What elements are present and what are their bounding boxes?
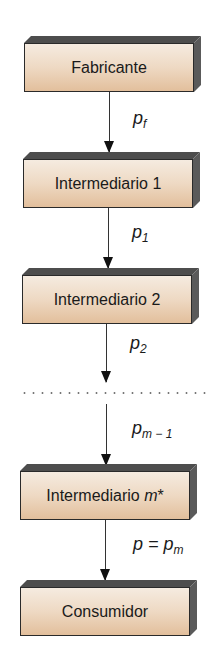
arrow-p1 — [108, 208, 109, 268]
box-top-face — [20, 464, 197, 471]
box-top-face — [22, 268, 199, 275]
box-consumidor: Consumidor — [20, 587, 190, 636]
box-label: Intermediario 1 — [23, 159, 193, 208]
arrow-pm-1 — [106, 404, 107, 465]
arrow-p-equals-pm — [105, 520, 106, 580]
box-side-face — [190, 580, 197, 636]
box-label: Intermediario m* — [20, 471, 190, 520]
box-side-face — [190, 464, 197, 520]
arrow-pf — [109, 92, 110, 152]
box-intermediario-2: Intermediario 2 — [22, 275, 192, 324]
box-top-face — [24, 36, 201, 43]
label-p2: p2 — [130, 333, 147, 356]
box-side-face — [193, 152, 200, 208]
label-p1: p1 — [132, 222, 149, 245]
box-intermediario-m: Intermediario m* — [20, 471, 190, 520]
label-pm-1: pm − 1 — [132, 418, 172, 441]
box-label: Consumidor — [20, 587, 190, 636]
box-top-face — [20, 580, 197, 587]
box-top-face — [23, 152, 200, 159]
dotted-separator — [20, 392, 206, 394]
arrow-p2 — [106, 324, 107, 382]
box-intermediario-1: Intermediario 1 — [23, 159, 193, 208]
box-side-face — [192, 268, 199, 324]
box-fabricante: Fabricante — [24, 43, 194, 92]
label-p-equals-pm: p = pm — [133, 534, 184, 557]
box-label: Fabricante — [24, 43, 194, 92]
box-label: Intermediario 2 — [22, 275, 192, 324]
label-pf: pf — [133, 108, 146, 131]
box-side-face — [194, 36, 201, 92]
